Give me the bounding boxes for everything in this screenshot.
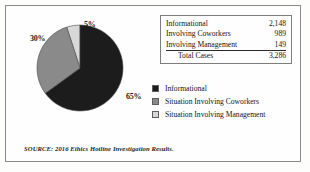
pie-chart: 65% 30% 5% [14, 12, 154, 128]
table-cell-label: Involving Management [166, 40, 263, 51]
pie-slices [37, 25, 123, 111]
figure-container: 65% 30% 5% Informational 2,148 Involving… [0, 0, 310, 172]
source-note: SOURCE: 2016 Ethics Hotline Investigatio… [24, 145, 174, 152]
legend-item-informational: Informational [152, 82, 302, 95]
table-cell-total-label: Total Cases [166, 51, 263, 62]
table-cell-label: Involving Coworkers [166, 29, 263, 39]
table-row: Involving Coworkers 989 [166, 29, 286, 39]
table-cell-value: 989 [263, 29, 286, 39]
legend-item-label: Situation Involving Management [165, 110, 265, 119]
legend-item-label: Situation Involving Coworkers [165, 97, 259, 106]
legend-swatch-icon [152, 111, 159, 118]
table-cell-total-value: 3,286 [263, 51, 286, 62]
table-row: Informational 2,148 [166, 19, 286, 29]
case-counts-table-body: Informational 2,148 Involving Coworkers … [166, 19, 286, 62]
pie-percent-label-management: 5% [84, 20, 96, 29]
legend-item-label: Informational [165, 84, 207, 93]
case-counts-table: Informational 2,148 Involving Coworkers … [160, 15, 292, 64]
pie-percent-label-coworkers: 30% [30, 34, 45, 43]
legend-swatch-icon [152, 98, 159, 105]
legend-swatch-icon [152, 85, 159, 92]
pie-percent-label-informational: 65% [126, 92, 141, 101]
table-row: Involving Management 149 [166, 40, 286, 51]
pie-chart-svg [14, 12, 154, 128]
table-cell-value: 2,148 [263, 19, 286, 29]
table-row-total: Total Cases 3,286 [166, 51, 286, 62]
legend-item-coworkers: Situation Involving Coworkers [152, 95, 302, 108]
legend-item-management: Situation Involving Management [152, 108, 302, 121]
chart-legend: Informational Situation Involving Cowork… [152, 82, 302, 121]
table-cell-label: Informational [166, 19, 263, 29]
table-cell-value: 149 [263, 40, 286, 51]
